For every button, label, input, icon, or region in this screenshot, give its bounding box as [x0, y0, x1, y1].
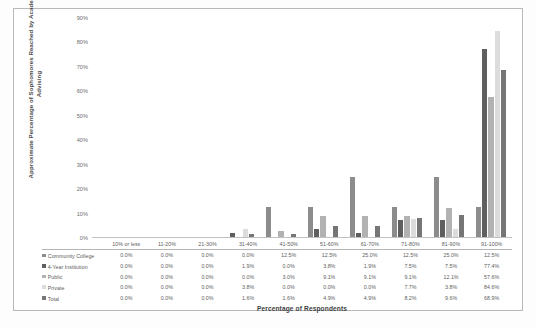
bar: [459, 215, 464, 238]
table-cell-value: 0.0%: [147, 271, 188, 282]
legend-swatch-icon: [42, 285, 46, 289]
table-cell-value: 0.0%: [187, 282, 228, 293]
legend-label: 4-Year Institution: [48, 263, 88, 269]
table-cell-value: 0.0%: [106, 282, 147, 293]
table-cell-value: 0.0%: [106, 261, 147, 272]
legend-swatch-icon: [42, 275, 46, 279]
table-row: Community College0.0%0.0%0.0%0.0%12.5%12…: [42, 250, 512, 261]
table-cell-value: 12.1%: [431, 271, 472, 282]
table-cell-value: 3.8%: [309, 261, 350, 272]
table-cell-value: 0.0%: [147, 293, 188, 304]
bar-cluster: [134, 18, 176, 238]
bar: [495, 31, 500, 238]
bar: [501, 70, 506, 238]
x-axis-title: Percentage of Respondents: [92, 305, 512, 312]
chart-figure: Approximate Percentage of Sophomores Rea…: [0, 0, 536, 327]
legend-item[interactable]: Public: [42, 271, 106, 282]
table-cell-value: 77.4%: [471, 261, 512, 272]
bar-cluster: [428, 18, 470, 238]
bar-cluster: [344, 18, 386, 238]
bar-cluster: [302, 18, 344, 238]
table-cell-value: 0.0%: [187, 271, 228, 282]
table-cell-value: 3.8%: [431, 282, 472, 293]
bar: [266, 207, 271, 238]
table-cell-value: 0.0%: [106, 250, 147, 261]
table-cell-value: 84.6%: [471, 282, 512, 293]
table-cell-value: 3.8%: [228, 282, 269, 293]
y-axis-tick-label: 90%: [56, 15, 88, 21]
table-cell-value: 9.6%: [431, 293, 472, 304]
y-axis-tick-label: 10%: [56, 211, 88, 217]
bar: [440, 220, 445, 238]
legend-data-table: 10% or less11-20%21-30%31-40%41-50%51-60…: [42, 239, 512, 301]
bar: [417, 218, 422, 238]
table-corner-cell: [42, 239, 106, 250]
bar: [446, 208, 451, 238]
bar: [392, 207, 397, 238]
table-row: Private0.0%0.0%0.0%3.8%0.0%0.0%0.0%7.7%3…: [42, 282, 512, 293]
legend-item[interactable]: 4-Year Institution: [42, 261, 106, 272]
table-cell-value: 0.0%: [228, 250, 269, 261]
table-cell-value: 7.7%: [390, 282, 431, 293]
legend-swatch-icon: [42, 264, 46, 268]
table-cell-value: 7.5%: [431, 261, 472, 272]
bar: [308, 207, 313, 238]
table-cell-value: 12.5%: [471, 250, 512, 261]
table-column-header: 51-60%: [309, 239, 350, 250]
bar-cluster: [176, 18, 218, 238]
bar-cluster: [92, 18, 134, 238]
table-cell-value: 0.0%: [350, 282, 391, 293]
bar-cluster: [218, 18, 260, 238]
table-cell-value: 4.9%: [309, 293, 350, 304]
table-cell-value: 0.0%: [268, 261, 309, 272]
table-cell-value: 1.9%: [228, 261, 269, 272]
table-row: Public0.0%0.0%0.0%0.0%3.0%9.1%9.1%9.1%12…: [42, 271, 512, 282]
table-cell-value: 57.6%: [471, 271, 512, 282]
legend-item[interactable]: Total: [42, 293, 106, 304]
y-axis-tick-labels: 0%10%20%30%40%50%60%70%80%90%: [56, 18, 88, 238]
table-cell-value: 25.0%: [350, 250, 391, 261]
table-cell-value: 0.0%: [268, 282, 309, 293]
table-column-header: 31-40%: [228, 239, 269, 250]
bar: [482, 49, 487, 238]
bar: [362, 216, 367, 238]
table-cell-value: 0.0%: [147, 261, 188, 272]
table-cell-value: 9.1%: [350, 271, 391, 282]
bar: [320, 216, 325, 238]
bar: [434, 177, 439, 238]
legend-swatch-icon: [42, 254, 46, 258]
legend-label: Public: [48, 274, 63, 280]
table-column-header: 21-30%: [187, 239, 228, 250]
table-cell-value: 0.0%: [187, 293, 228, 304]
legend-label: Community College: [48, 253, 95, 259]
bar-cluster: [386, 18, 428, 238]
table-column-header: 61-70%: [350, 239, 391, 250]
bar: [476, 207, 481, 238]
table-cell-value: 1.9%: [350, 261, 391, 272]
table-cell-value: 12.5%: [390, 250, 431, 261]
legend-label: Private: [48, 285, 65, 291]
y-axis-tick-label: 80%: [56, 39, 88, 45]
bar: [411, 219, 416, 238]
table-cell-value: 1.6%: [228, 293, 269, 304]
plot-area: [92, 18, 512, 238]
legend-item[interactable]: Private: [42, 282, 106, 293]
bar: [404, 216, 409, 238]
table-cell-value: 0.0%: [228, 271, 269, 282]
y-axis-tick-label: 30%: [56, 162, 88, 168]
table-cell-value: 0.0%: [106, 293, 147, 304]
y-axis-tick-label: 20%: [56, 186, 88, 192]
y-axis-title: Approximate Percentage of Sophomores Rea…: [27, 0, 59, 190]
table-column-header: 81-90%: [431, 239, 472, 250]
table-cell-value: 12.5%: [309, 250, 350, 261]
table-header-row: 10% or less11-20%21-30%31-40%41-50%51-60…: [42, 239, 512, 250]
y-axis-tick-label: 50%: [56, 113, 88, 119]
legend-item[interactable]: Community College: [42, 250, 106, 261]
table-cell-value: 0.0%: [106, 271, 147, 282]
table-cell-value: 1.6%: [268, 293, 309, 304]
y-axis-tick-label: 70%: [56, 64, 88, 70]
bar-cluster: [470, 18, 512, 238]
table-cell-value: 68.9%: [471, 293, 512, 304]
table-cell-value: 0.0%: [309, 282, 350, 293]
table-cell-value: 7.5%: [390, 261, 431, 272]
